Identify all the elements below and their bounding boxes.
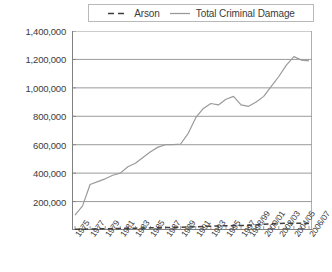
y-axis-label-1400000: 1,400,000 (0, 26, 66, 37)
plot-area (72, 31, 312, 230)
legend-label-arson: Arson (134, 8, 160, 19)
y-axis-label-200000: 200,000 (0, 197, 66, 208)
chart-legend: Arson Total Criminal Damage (88, 4, 314, 22)
legend-entry-arson: Arson (107, 8, 160, 19)
axis-lines (72, 31, 312, 230)
solid-line-swatch-icon (169, 10, 191, 17)
y-axis-label-1200000: 1,200,000 (0, 54, 66, 65)
y-axis-label-400000: 400,000 (0, 168, 66, 179)
y-axis-label-800000: 800,000 (0, 111, 66, 122)
legend-label-total-criminal-damage: Total Criminal Damage (196, 8, 295, 19)
series-line-total-criminal-damage (75, 57, 309, 215)
dashed-line-swatch-icon (107, 10, 129, 17)
legend-entry-total-criminal-damage: Total Criminal Damage (169, 8, 295, 19)
plot-svg (72, 31, 312, 230)
y-axis-label-600000: 600,000 (0, 140, 66, 151)
y-axis-label-1000000: 1,000,000 (0, 83, 66, 94)
gridlines (72, 31, 312, 202)
